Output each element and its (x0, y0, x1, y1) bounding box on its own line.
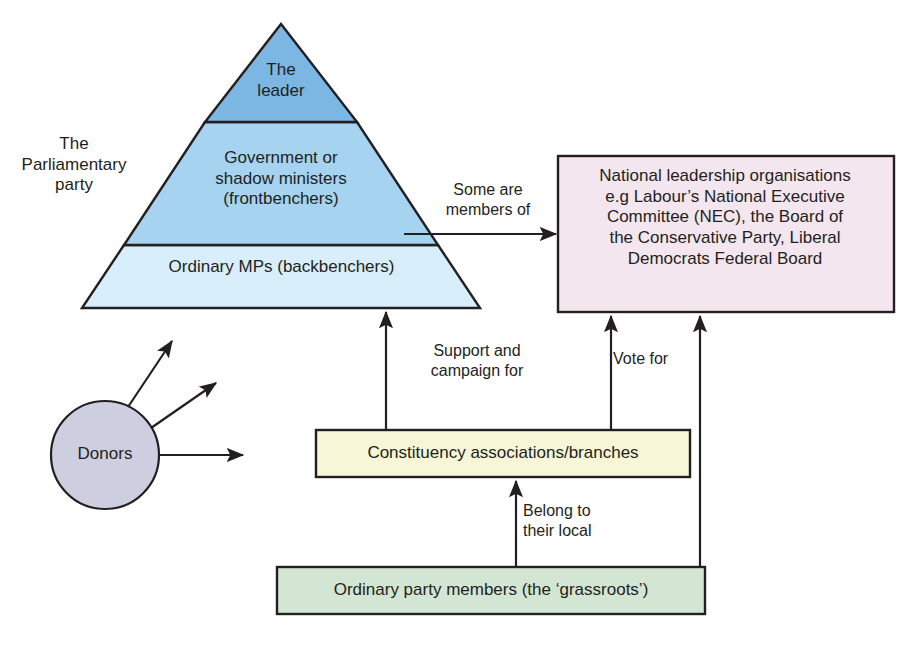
edge-label-support-and-campaign-for: Support and campaign for (399, 341, 555, 380)
edge-label-vote-for: Vote for (613, 349, 703, 369)
diagram-canvas (0, 0, 904, 649)
edge-label-belong-to-their-local: Belong to their local (523, 501, 663, 540)
pyramid-tier-backbenchers-label: Ordinary MPs (backbenchers) (110, 257, 453, 278)
donors-label: Donors (52, 444, 158, 465)
national-leadership-box-label: National leadership organisations e.g La… (562, 166, 888, 270)
constituency-box-label: Constituency associations/branches (322, 443, 684, 464)
donors-arrow-2 (151, 383, 216, 428)
pyramid-tier-leader-label: The leader (221, 60, 341, 101)
pyramid-tier-frontbenchers-label: Government or shadow ministers (frontben… (157, 148, 405, 210)
edge-label-some-are-members-of: Some are members of (418, 180, 558, 219)
party-structure-diagram: The Parliamentary party The leader Gover… (0, 0, 904, 649)
donors-arrow-1 (128, 341, 172, 407)
grassroots-box-label: Ordinary party members (the ‘grassroots’… (283, 580, 699, 601)
parliamentary-party-label: The Parliamentary party (14, 134, 134, 196)
